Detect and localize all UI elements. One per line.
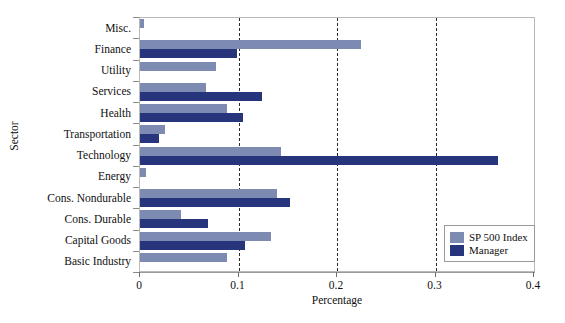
bar-manager	[140, 198, 290, 207]
x-axis-tick-label: 0	[119, 279, 159, 291]
bar-sp500	[140, 147, 281, 156]
bar-sp500	[140, 168, 146, 177]
bar-manager	[140, 219, 208, 228]
bar-manager	[140, 49, 237, 58]
bar-manager	[140, 113, 243, 122]
x-axis-tick	[336, 272, 337, 277]
bar-manager	[140, 156, 498, 165]
y-axis-label: Services	[0, 85, 131, 97]
x-axis-tick	[238, 272, 239, 277]
bar-group	[140, 146, 534, 167]
y-axis-label: Health	[0, 107, 131, 119]
bar-sp500	[140, 40, 361, 49]
x-axis-tick	[533, 272, 534, 277]
legend-item: SP 500 Index	[450, 231, 528, 243]
y-axis-label: Finance	[0, 43, 131, 55]
legend-label: SP 500 Index	[469, 231, 528, 243]
y-axis-label: Basic Industry	[0, 255, 131, 267]
y-axis-label: Technology	[0, 149, 131, 161]
y-axis-label: Cons. Durable	[0, 213, 131, 225]
bar-manager	[140, 241, 245, 250]
bar-sp500	[140, 19, 144, 28]
bar-group	[140, 167, 534, 188]
bar-sp500	[140, 62, 216, 71]
x-axis-tick-label: 0.2	[316, 279, 356, 291]
bar-sp500	[140, 83, 206, 92]
bar-group	[140, 61, 534, 82]
bar-group	[140, 124, 534, 145]
bar-manager	[140, 92, 262, 101]
bar-sp500	[140, 253, 227, 262]
legend-label: Manager	[469, 244, 508, 256]
y-axis-label: Utility	[0, 64, 131, 76]
x-axis-tick	[435, 272, 436, 277]
bar-sp500	[140, 125, 165, 134]
bar-group	[140, 103, 534, 124]
x-axis-tick-label: 0.3	[415, 279, 455, 291]
legend-swatch-sp	[450, 232, 464, 243]
bar-group	[140, 18, 534, 39]
legend-swatch-mgr	[450, 245, 464, 256]
x-axis-tick-label: 0.4	[513, 279, 553, 291]
bar-group	[140, 82, 534, 103]
y-axis-label: Energy	[0, 170, 131, 182]
bar-manager	[140, 134, 159, 143]
bar-sp500	[140, 232, 271, 241]
y-axis-label: Misc.	[0, 22, 131, 34]
x-axis-tick-label: 0.1	[218, 279, 258, 291]
bar-sp500	[140, 104, 227, 113]
y-axis-label: Capital Goods	[0, 234, 131, 246]
bar-chart: Sector Misc.FinanceUtilityServicesHealth…	[0, 0, 565, 323]
legend-item: Manager	[450, 244, 528, 256]
bar-group	[140, 39, 534, 60]
y-axis-label: Transportation	[0, 128, 131, 140]
x-axis-line	[139, 272, 535, 273]
x-axis-tick	[139, 272, 140, 277]
bar-group	[140, 188, 534, 209]
legend: SP 500 IndexManager	[444, 225, 535, 262]
bar-sp500	[140, 210, 181, 219]
x-axis-title: Percentage	[312, 294, 362, 306]
y-axis-label: Cons. Nondurable	[0, 192, 131, 204]
bar-sp500	[140, 189, 277, 198]
x-axis-title-row: Percentage	[0, 294, 565, 306]
